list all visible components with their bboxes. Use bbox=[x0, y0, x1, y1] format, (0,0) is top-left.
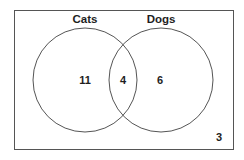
intersection-count: 4 bbox=[120, 74, 127, 86]
cats-label: Cats bbox=[73, 13, 98, 25]
outside-count: 3 bbox=[216, 131, 222, 143]
dogs-label: Dogs bbox=[147, 13, 176, 25]
venn-diagram: Cats Dogs 11 4 6 3 bbox=[0, 0, 244, 160]
cats-only-count: 11 bbox=[79, 74, 91, 86]
dogs-only-count: 6 bbox=[157, 74, 163, 86]
